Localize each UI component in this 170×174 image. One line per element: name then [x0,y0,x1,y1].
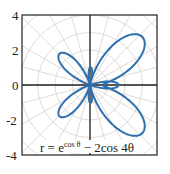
y-tick-4: 4 [12,8,19,23]
y-tick-neg4: -4 [6,148,17,163]
equation-label: r = ecos θ − 2cos 4θ [40,140,134,155]
polar-plot: 4 2 0 -2 -4 r = ecos θ − 2cos 4θ [0,0,170,174]
y-tick-2: 2 [12,43,19,58]
y-tick-0: 0 [12,78,19,93]
y-tick-neg2: -2 [6,113,17,128]
y-tick-labels: 4 2 0 -2 -4 [6,8,19,163]
